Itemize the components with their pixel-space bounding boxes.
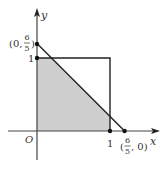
x-tick-one-label: 1 bbox=[107, 138, 113, 149]
y-intercept-label-num: 6 bbox=[25, 33, 30, 42]
coordinate-diagram: y x O 1 1 (0, 6 5 ) ( 6 5 , 0) bbox=[0, 0, 168, 171]
point-y-intercept bbox=[35, 42, 39, 46]
x-intercept-label-num: 6 bbox=[125, 136, 130, 145]
origin-label: O bbox=[25, 134, 33, 145]
y-tick-one-label: 1 bbox=[28, 53, 34, 64]
point-x-one bbox=[108, 129, 112, 133]
shaded-region bbox=[37, 58, 110, 131]
y-intercept-label-prefix: (0, bbox=[9, 38, 22, 49]
point-y-one bbox=[35, 56, 39, 60]
x-intercept-label-prefix: ( bbox=[120, 141, 124, 152]
x-intercept-label-suffix: , 0) bbox=[131, 141, 148, 152]
y-intercept-label-den: 5 bbox=[25, 44, 30, 53]
x-intercept-label-den: 5 bbox=[125, 147, 130, 156]
y-axis-label: y bbox=[40, 9, 48, 22]
y-intercept-label-suffix: ) bbox=[31, 38, 35, 49]
point-x-intercept bbox=[122, 129, 126, 133]
x-axis-label: x bbox=[150, 135, 157, 148]
